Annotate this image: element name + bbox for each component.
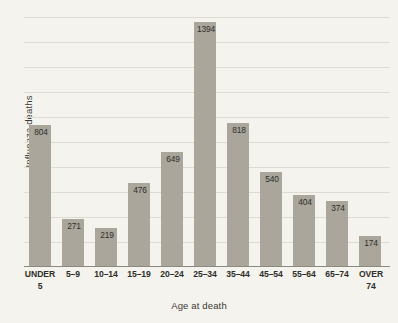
bar-value-label: 174 <box>360 238 382 248</box>
x-tick-label: OVER 74 <box>349 269 393 292</box>
bar-value-label: 818 <box>228 125 250 135</box>
bar-chart-figure: Influenza deaths 804 271 219 476 <box>0 0 398 323</box>
bar[interactable] <box>194 22 216 266</box>
bar-slot: 271 <box>57 14 89 266</box>
bar-slot: 476 <box>123 14 155 266</box>
bar-slot: 540 <box>255 14 287 266</box>
bar-value-label: 649 <box>162 154 184 164</box>
bar-value-label: 404 <box>294 197 316 207</box>
bar-value-label: 476 <box>129 185 151 195</box>
x-tick-line2: 5 <box>18 281 62 293</box>
bar[interactable] <box>29 125 51 266</box>
bar-slot: 649 <box>156 14 188 266</box>
bar[interactable] <box>161 152 183 266</box>
bar-value-label: 271 <box>63 221 85 231</box>
bar-value-label: 1394 <box>195 24 217 34</box>
x-tick-line1: OVER <box>359 269 383 279</box>
x-tick-line1: 35–44 <box>226 269 250 279</box>
bar[interactable] <box>128 183 150 266</box>
bar-value-label: 804 <box>30 127 52 137</box>
x-axis-line <box>24 266 390 267</box>
bar-slot: 219 <box>90 14 122 266</box>
bar-value-label: 219 <box>96 230 118 240</box>
x-tick-line1: 10–14 <box>94 269 118 279</box>
x-tick-line1: 45–54 <box>259 269 283 279</box>
bar-slot: 174 <box>354 14 386 266</box>
x-tick-line1: 55–64 <box>292 269 316 279</box>
x-axis-tick-labels: UNDER 5 5–9 10–14 15–19 20–24 25–34 35–4… <box>24 269 390 303</box>
x-tick-line1: 25–34 <box>193 269 217 279</box>
bar-slot: 1394 <box>189 14 221 266</box>
bar-value-label: 540 <box>261 174 283 184</box>
bar-slot: 818 <box>222 14 254 266</box>
x-tick-line1: 15–19 <box>127 269 151 279</box>
bar-slot: 804 <box>24 14 56 266</box>
x-tick-line1: 65–74 <box>325 269 349 279</box>
bar-value-label: 374 <box>327 203 349 213</box>
bar-slot: 374 <box>321 14 353 266</box>
x-tick-line1: 20–24 <box>160 269 184 279</box>
bar[interactable] <box>260 172 282 267</box>
bar-slot: 404 <box>288 14 320 266</box>
bar[interactable] <box>227 123 249 266</box>
x-tick-line1: 5–9 <box>66 269 80 279</box>
x-axis-title: Age at death <box>0 300 398 311</box>
bar-series: 804 271 219 476 649 1394 818 540 <box>24 14 390 266</box>
x-tick-line2: 74 <box>349 281 393 293</box>
